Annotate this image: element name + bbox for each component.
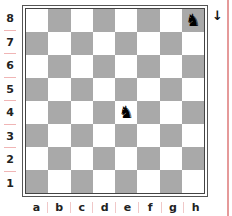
square-c1[interactable] [71,170,93,193]
square-a5[interactable] [26,78,48,101]
file-label-a: a [25,199,48,216]
rank-label-1: 1 [0,172,20,196]
square-a1[interactable] [26,170,48,193]
rank-label-7: 7 [0,31,20,55]
rank-label-3: 3 [0,125,20,149]
square-b2[interactable] [48,147,70,170]
file-label-f: f [139,199,162,216]
square-b4[interactable] [48,101,70,124]
square-f6[interactable] [137,55,159,78]
square-h3[interactable] [182,124,204,147]
rank-label-2: 2 [0,148,20,172]
square-e3[interactable] [115,124,137,147]
file-label-c: c [71,199,94,216]
square-d8[interactable] [93,9,115,32]
square-c3[interactable] [71,124,93,147]
rank-label-8: 8 [0,7,20,31]
square-a7[interactable] [26,32,48,55]
square-b6[interactable] [48,55,70,78]
square-g4[interactable] [160,101,182,124]
square-d2[interactable] [93,147,115,170]
black-knight-icon[interactable]: ♞ [185,12,200,29]
rank-label-5: 5 [0,78,20,102]
rank-label-4: 4 [0,101,20,125]
square-f5[interactable] [137,78,159,101]
square-e1[interactable] [115,170,137,193]
rank-label-6: 6 [0,54,20,78]
square-e4[interactable]: ♞ [115,101,137,124]
square-d1[interactable] [93,170,115,193]
square-c4[interactable] [71,101,93,124]
square-a8[interactable] [26,9,48,32]
square-d7[interactable] [93,32,115,55]
square-f4[interactable] [137,101,159,124]
square-e7[interactable] [115,32,137,55]
square-e2[interactable] [115,147,137,170]
square-g1[interactable] [160,170,182,193]
file-label-g: g [162,199,185,216]
square-d4[interactable] [93,101,115,124]
square-b7[interactable] [48,32,70,55]
square-c5[interactable] [71,78,93,101]
square-a3[interactable] [26,124,48,147]
square-b5[interactable] [48,78,70,101]
square-d3[interactable] [93,124,115,147]
square-b1[interactable] [48,170,70,193]
square-c8[interactable] [71,9,93,32]
square-g2[interactable] [160,147,182,170]
square-g7[interactable] [160,32,182,55]
square-d6[interactable] [93,55,115,78]
square-h2[interactable] [182,147,204,170]
file-label-d: d [93,199,116,216]
square-f3[interactable] [137,124,159,147]
file-label-e: e [116,199,139,216]
square-f2[interactable] [137,147,159,170]
square-d5[interactable] [93,78,115,101]
file-label-b: b [48,199,71,216]
square-f8[interactable] [137,9,159,32]
square-h1[interactable] [182,170,204,193]
chess-board: ♞♞ [22,5,208,197]
black-knight-icon[interactable]: ♞ [119,104,134,121]
square-h8[interactable]: ♞ [182,9,204,32]
square-a4[interactable] [26,101,48,124]
square-g5[interactable] [160,78,182,101]
down-arrow-icon: ↓ [212,9,223,22]
square-e6[interactable] [115,55,137,78]
square-c2[interactable] [71,147,93,170]
file-labels: abcdefgh [25,199,207,216]
square-g6[interactable] [160,55,182,78]
square-f1[interactable] [137,170,159,193]
square-g3[interactable] [160,124,182,147]
square-g8[interactable] [160,9,182,32]
square-c6[interactable] [71,55,93,78]
margin-line [227,0,229,216]
square-b3[interactable] [48,124,70,147]
square-e8[interactable] [115,9,137,32]
square-h6[interactable] [182,55,204,78]
square-h5[interactable] [182,78,204,101]
square-a6[interactable] [26,55,48,78]
square-h7[interactable] [182,32,204,55]
square-c7[interactable] [71,32,93,55]
square-f7[interactable] [137,32,159,55]
square-h4[interactable] [182,101,204,124]
rank-labels: 87654321 [0,7,20,195]
file-label-h: h [184,199,207,216]
square-b8[interactable] [48,9,70,32]
board-grid: ♞♞ [25,8,205,194]
square-e5[interactable] [115,78,137,101]
square-a2[interactable] [26,147,48,170]
